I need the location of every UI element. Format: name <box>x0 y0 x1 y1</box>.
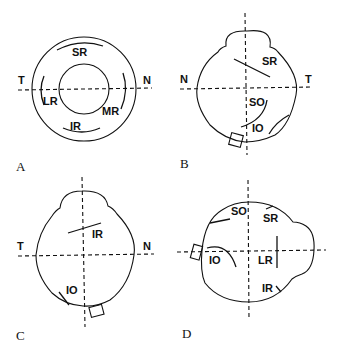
eye-muscle-diagram: SR LR MR IR T N A SR SO IO N T B IR IO T… <box>0 0 339 353</box>
muscle-ir <box>63 128 100 132</box>
vertical-axis <box>82 177 85 327</box>
label-ir: IR <box>92 228 103 240</box>
muscle-so <box>210 219 230 223</box>
panel-label: A <box>16 159 26 174</box>
panel-b: SR SO IO N T B <box>180 13 313 171</box>
label-mr: MR <box>102 105 119 117</box>
panel-d: SO SR IO LR IR D <box>177 180 326 341</box>
vertical-axis <box>248 180 249 320</box>
optic-nerve-stump <box>190 244 202 260</box>
orientation-right: T <box>305 73 312 85</box>
orientation-right: N <box>143 74 151 86</box>
vertical-axis <box>245 13 247 155</box>
horizontal-axis <box>180 87 313 89</box>
muscle-mr <box>121 73 126 109</box>
globe-outline <box>201 202 314 302</box>
panel-c: IR IO T N C <box>16 177 154 343</box>
label-sr: SR <box>263 212 278 224</box>
label-sr: SR <box>72 46 87 58</box>
orientation-left: T <box>17 240 24 252</box>
label-io: IO <box>252 122 264 134</box>
horizontal-axis <box>177 250 326 252</box>
label-lr: LR <box>43 95 58 107</box>
panel-label: B <box>180 156 189 171</box>
orientation-right: N <box>143 240 151 252</box>
orientation-left: N <box>180 73 188 85</box>
label-so: SO <box>231 205 247 217</box>
panel-label: C <box>16 328 25 343</box>
label-ir: IR <box>262 282 273 294</box>
panel-a: SR LR MR IR T N A <box>16 37 152 174</box>
label-ir: IR <box>70 120 81 132</box>
label-io: IO <box>209 254 221 266</box>
muscle-ir <box>276 286 281 292</box>
label-sr: SR <box>262 55 277 67</box>
label-lr: LR <box>258 254 273 266</box>
label-so: SO <box>249 96 265 108</box>
muscle-sr <box>266 206 273 209</box>
panel-label: D <box>182 326 191 341</box>
globe-outline <box>36 191 134 306</box>
horizontal-axis <box>18 88 152 90</box>
label-io: IO <box>66 284 78 296</box>
orientation-left: T <box>18 74 25 86</box>
